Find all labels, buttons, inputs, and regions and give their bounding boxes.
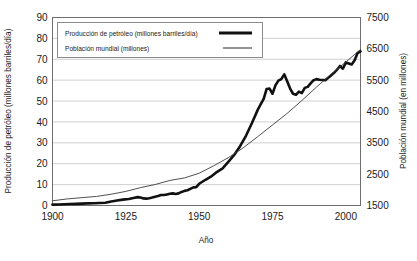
y-tick-label: 60 <box>36 75 48 86</box>
y2-tick-label: 5500 <box>367 75 390 86</box>
x-tick-label: 1950 <box>188 211 211 222</box>
y-tick-label: 90 <box>36 12 48 23</box>
chart-legend: Producción de petróleo (millones barrile… <box>58 23 263 58</box>
y2-tick-label: 3500 <box>367 137 390 148</box>
x-tick-label: 2000 <box>335 211 358 222</box>
y-tick-label: 10 <box>36 179 48 190</box>
y2-tick-label: 2500 <box>367 169 390 180</box>
x-tick-label: 1925 <box>115 211 138 222</box>
y-tick-label: 40 <box>36 117 48 128</box>
chart-container: 0102030405060708090 15002500350045005500… <box>0 0 417 261</box>
y2-axis-title: Población mundial (en millones) <box>399 53 408 169</box>
y-tick-label: 30 <box>36 137 48 148</box>
x-axis-title: Año <box>199 236 214 245</box>
y-tick-label: 50 <box>36 96 48 107</box>
legend-box <box>58 23 263 58</box>
legend-label-population: Población mundial (millones) <box>65 45 149 53</box>
legend-label-oil: Producción de petróleo (millones barrile… <box>65 30 198 38</box>
y2-tick-label: 4500 <box>367 106 390 117</box>
y2-tick-label: 1500 <box>367 200 390 211</box>
y-tick-label: 80 <box>36 33 48 44</box>
y-tick-label: 70 <box>36 54 48 65</box>
x-tick-label: 1900 <box>41 211 64 222</box>
y2-tick-label: 7500 <box>367 12 390 23</box>
y-tick-label: 20 <box>36 158 48 169</box>
y2-tick-label: 6500 <box>367 43 390 54</box>
x-tick-label: 1975 <box>261 211 284 222</box>
y-tick-label: 0 <box>42 200 48 211</box>
y-axis-title: Producción de petróleo (millones barrile… <box>4 28 13 193</box>
oil-production-population-chart: 0102030405060708090 15002500350045005500… <box>0 0 417 261</box>
